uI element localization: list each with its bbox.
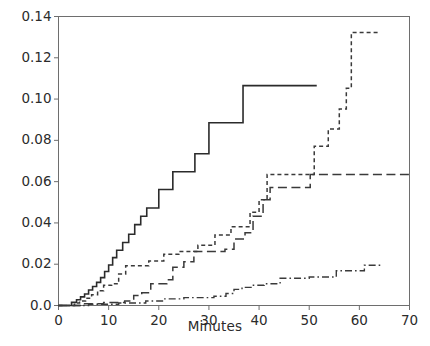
axis-ticks bbox=[54, 17, 410, 311]
plot-box bbox=[59, 17, 410, 306]
y-tick-label: 0.04 bbox=[21, 216, 51, 230]
y-tick-label: 0.14 bbox=[21, 10, 51, 24]
y-tick-label: 0.0 bbox=[30, 299, 51, 313]
series-solid bbox=[59, 86, 317, 306]
y-tick-label: 0.10 bbox=[21, 92, 51, 106]
y-tick-label: 0.06 bbox=[21, 175, 51, 189]
y-tick-label: 0.02 bbox=[21, 257, 51, 271]
chart-container: 0.00.020.040.060.080.100.120.14 01020304… bbox=[0, 0, 430, 346]
plot-frame bbox=[59, 17, 410, 306]
y-tick-label: 0.12 bbox=[21, 51, 51, 65]
x-axis-title: Minutes bbox=[0, 318, 430, 334]
plot-area bbox=[0, 0, 430, 346]
y-tick-label: 0.08 bbox=[21, 133, 51, 147]
data-series-group bbox=[59, 33, 410, 306]
series-short-dash bbox=[59, 33, 381, 306]
